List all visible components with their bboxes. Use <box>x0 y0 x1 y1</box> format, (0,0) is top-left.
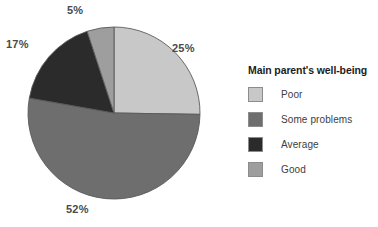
slice-value-label-poor: 25% <box>172 42 195 54</box>
pie-slice-poor <box>114 27 200 114</box>
legend-item-good: Good <box>248 162 376 177</box>
slice-value-label-average: 17% <box>6 38 29 50</box>
legend-swatch-poor <box>248 87 263 102</box>
legend-swatch-some-problems <box>248 112 263 127</box>
legend-item-average: Average <box>248 137 376 152</box>
legend-item-poor: Poor <box>248 87 376 102</box>
legend-label-good: Good <box>281 164 306 175</box>
chart-legend: Main parent's well-being Poor Some probl… <box>248 64 376 177</box>
legend-item-some-problems: Some problems <box>248 112 376 127</box>
legend-label-some-problems: Some problems <box>281 114 352 125</box>
pie-chart-area: 5% 25% 17% 52% <box>0 0 232 227</box>
legend-label-poor: Poor <box>281 89 303 100</box>
legend-swatch-good <box>248 162 263 177</box>
pie-chart-graphic <box>0 0 232 227</box>
slice-value-label-good: 5% <box>67 4 83 16</box>
legend-swatch-average <box>248 137 263 152</box>
legend-label-average: Average <box>281 139 319 150</box>
slice-value-label-some-problems: 52% <box>66 203 89 215</box>
legend-title: Main parent's well-being <box>248 64 376 76</box>
